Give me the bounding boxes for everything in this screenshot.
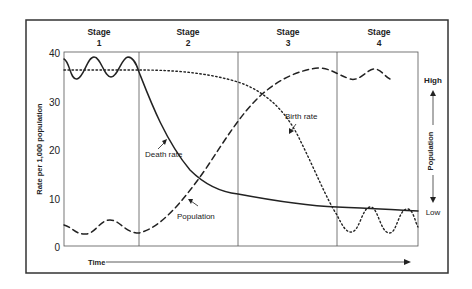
stage-2-number: 2 bbox=[186, 38, 191, 48]
right-axis-title: Population bbox=[426, 131, 435, 170]
population-line bbox=[64, 68, 390, 234]
x-axis-title: Time bbox=[88, 258, 105, 267]
y-axis-title: Rate per 1,000 population bbox=[35, 103, 44, 195]
y-tick-20: 20 bbox=[49, 145, 61, 156]
stage-headers: Stage 1 Stage 2 Stage 3 Stage 4 bbox=[87, 27, 390, 48]
annotations: Death rate Birth rate Population bbox=[145, 112, 318, 221]
death-rate-label: Death rate bbox=[145, 150, 183, 159]
stage-4-label: Stage bbox=[367, 27, 390, 37]
stage-1-label: Stage bbox=[87, 27, 110, 37]
right-axis-low: Low bbox=[426, 208, 441, 217]
demographic-transition-chart: Stage 1 Stage 2 Stage 3 Stage 4 40 30 20… bbox=[0, 0, 472, 289]
stage-3-number: 3 bbox=[286, 38, 291, 48]
arrow-down-icon bbox=[430, 197, 436, 203]
outer-frame bbox=[26, 20, 448, 273]
birth-rate-label: Birth rate bbox=[285, 112, 318, 121]
y-tick-40: 40 bbox=[49, 48, 61, 59]
stage-3-label: Stage bbox=[276, 27, 299, 37]
y-tick-10: 10 bbox=[49, 194, 61, 205]
right-axis: High Population Low bbox=[424, 76, 442, 217]
y-tick-0: 0 bbox=[54, 242, 60, 253]
y-axis-ticks: 40 30 20 10 0 bbox=[49, 48, 61, 253]
y-tick-30: 30 bbox=[49, 97, 61, 108]
population-label: Population bbox=[177, 212, 215, 221]
arrow-up-icon bbox=[430, 90, 436, 96]
birth-rate-arrow-icon bbox=[289, 128, 294, 134]
stage-4-number: 4 bbox=[377, 38, 382, 48]
time-axis: Time bbox=[88, 258, 411, 267]
right-axis-high: High bbox=[424, 76, 442, 85]
arrow-right-icon bbox=[404, 259, 411, 265]
stage-2-label: Stage bbox=[176, 27, 199, 37]
plot-area bbox=[64, 52, 418, 246]
stage-dividers bbox=[139, 52, 337, 246]
death-rate-line bbox=[64, 57, 418, 211]
stage-1-number: 1 bbox=[97, 38, 102, 48]
